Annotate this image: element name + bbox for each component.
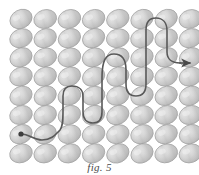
- figure-caption: fig. 5: [0, 161, 199, 173]
- path-start-dot: [18, 131, 23, 136]
- figure-container: fig. 5: [0, 0, 199, 175]
- figure-illustration: [0, 0, 199, 175]
